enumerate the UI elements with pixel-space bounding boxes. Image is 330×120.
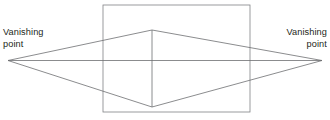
vanishing-point-label-left-line1: Vanishing: [3, 27, 44, 39]
vanishing-point-label-right-line1: Vanishing: [286, 27, 327, 39]
vanishing-point-label-right: Vanishing point: [286, 27, 327, 50]
ray-left-vp-to-bottom-apex: [8, 61, 152, 108]
perspective-diagram: Vanishing point Vanishing point: [0, 0, 330, 120]
vanishing-point-label-right-line2: point: [286, 39, 327, 51]
vanishing-point-label-left: Vanishing point: [3, 27, 44, 50]
picture-plane-rectangle: [103, 5, 250, 112]
vanishing-point-label-left-line2: point: [3, 39, 44, 51]
ray-bottom-apex-to-right-vp: [152, 61, 322, 108]
perspective-construction-svg: [0, 0, 330, 120]
